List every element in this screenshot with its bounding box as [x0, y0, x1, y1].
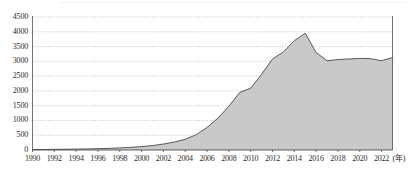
y-axis-tick-label: 3000: [0, 57, 28, 65]
series-1-area-fill: [33, 33, 393, 150]
x-axis-unit-label: (年): [393, 154, 406, 163]
area-chart: 050010001500200025003000350040004500 199…: [0, 0, 409, 174]
chart-plot-area: [0, 0, 409, 174]
y-axis-tick-label: 4500: [0, 13, 28, 21]
series-group: [33, 33, 393, 150]
y-axis-tick-label: 1000: [0, 116, 28, 124]
y-axis-tick-label: 4000: [0, 28, 28, 36]
y-axis-tick-label: 3500: [0, 43, 28, 51]
y-axis-tick-label: 2500: [0, 72, 28, 80]
y-axis-tick-label: 500: [0, 131, 28, 139]
y-axis-tick-label: 0: [0, 146, 28, 154]
y-axis-tick-label: 1500: [0, 102, 28, 110]
y-axis-tick-label: 2000: [0, 87, 28, 95]
